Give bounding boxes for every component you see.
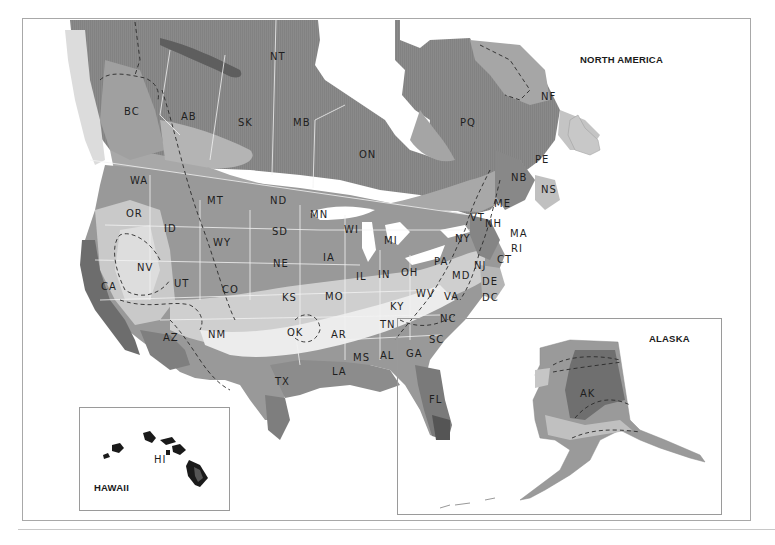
alaska-inset: [397, 318, 722, 515]
region-label-al: AL: [380, 351, 394, 361]
region-label-mn: MN: [310, 210, 328, 220]
region-label-pa: PA: [434, 257, 448, 267]
region-label-hi: HI: [154, 455, 166, 465]
region-label-ns: NS: [541, 185, 557, 195]
region-label-wv: WV: [416, 289, 435, 299]
region-label-va: VA: [444, 292, 459, 302]
region-label-de: DE: [482, 277, 498, 287]
region-label-sd: SD: [272, 227, 288, 237]
region-label-oh: OH: [401, 268, 418, 278]
region-label-sk: SK: [238, 118, 253, 128]
region-label-nf: NF: [541, 92, 556, 102]
region-label-nt: NT: [270, 52, 286, 62]
region-label-tx: TX: [275, 377, 290, 387]
region-label-ri: RI: [511, 244, 523, 254]
region-label-nm: NM: [208, 330, 226, 340]
region-label-bc: BC: [124, 107, 140, 117]
alaska-inset-title: ALASKA: [649, 333, 690, 344]
region-label-ca: CA: [101, 282, 117, 292]
region-label-md: MD: [452, 271, 470, 281]
region-label-vt: VT: [470, 213, 485, 223]
region-label-nb: NB: [511, 173, 527, 183]
region-label-ok: OK: [287, 328, 303, 338]
region-label-wy: WY: [213, 238, 231, 248]
region-label-wi: WI: [344, 225, 359, 235]
region-label-mo: MO: [325, 292, 344, 302]
region-label-ar: AR: [331, 330, 347, 340]
region-label-nh: NH: [485, 219, 502, 229]
region-label-ut: UT: [174, 279, 189, 289]
region-label-mb: MB: [293, 118, 311, 128]
map-title: NORTH AMERICA: [580, 54, 663, 65]
region-label-ky: KY: [390, 302, 404, 312]
region-label-ne: NE: [273, 259, 289, 269]
region-label-ma: MA: [510, 229, 527, 239]
region-label-ab: AB: [181, 112, 197, 122]
region-label-ga: GA: [406, 349, 423, 359]
region-label-ak: AK: [580, 389, 595, 399]
region-label-tn: TN: [380, 320, 396, 330]
region-label-pq: PQ: [460, 118, 476, 128]
region-label-ny: NY: [455, 234, 471, 244]
region-label-on: ON: [359, 150, 376, 160]
region-label-il: IL: [356, 272, 367, 282]
region-label-ct: CT: [497, 255, 512, 265]
region-label-id: ID: [164, 224, 177, 234]
region-label-nd: ND: [270, 196, 287, 206]
region-label-dc: DC: [482, 293, 499, 303]
region-label-in: IN: [378, 270, 390, 280]
region-label-ms: MS: [353, 353, 370, 363]
region-label-nv: NV: [137, 263, 153, 273]
region-label-ks: KS: [282, 293, 297, 303]
region-label-nc: NC: [440, 314, 456, 324]
region-label-wa: WA: [130, 176, 148, 186]
region-label-mt: MT: [207, 196, 224, 206]
region-label-co: CO: [222, 285, 239, 295]
region-label-pe: PE: [535, 155, 549, 165]
region-label-ia: IA: [323, 253, 335, 263]
region-label-sc: SC: [429, 335, 444, 345]
region-label-me: ME: [494, 199, 511, 209]
region-label-az: AZ: [163, 333, 179, 343]
region-label-la: LA: [332, 367, 347, 377]
region-label-nj: NJ: [474, 261, 486, 271]
region-label-fl: FL: [429, 395, 442, 405]
hawaii-inset-title: HAWAII: [94, 482, 129, 493]
region-label-mi: MI: [384, 236, 398, 246]
region-label-or: OR: [126, 209, 143, 219]
